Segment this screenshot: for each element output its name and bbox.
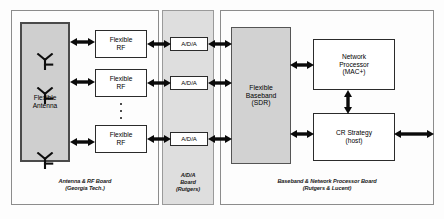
arrow-rf-ada-1 [147, 38, 171, 50]
arrow-ada-baseband-3 [208, 133, 232, 145]
cr-strategy-block[interactable]: CR Strategy (host) [313, 113, 395, 161]
ada-block-1[interactable]: A/D/A [170, 37, 208, 51]
arrow-ada-baseband-2 [208, 77, 232, 89]
antenna-icon [35, 34, 55, 51]
arrow-antenna-rf-2 [70, 76, 95, 88]
arrow-network-processor-cr-strategy [342, 90, 354, 114]
network-processor-block[interactable]: Network Processor (MAC+) [313, 39, 395, 90]
arrow-baseband-cr-strategy [290, 128, 314, 140]
board-ada-caption: A/D/A Board (Rutgers) [162, 172, 214, 192]
flexible-antenna-block[interactable]: Flexible Antenna [20, 22, 70, 162]
arrow-antenna-rf-3 [70, 136, 95, 148]
ada-block-3[interactable]: A/D/A [170, 132, 208, 146]
antenna-icon [35, 133, 55, 150]
arrow-cr-strategy-external [394, 128, 434, 140]
flexible-rf-block-1[interactable]: Flexible RF [95, 30, 147, 58]
arrow-rf-ada-3 [147, 133, 171, 145]
rf-column-ellipsis [117, 103, 125, 119]
ellipsis-dot [120, 110, 122, 112]
diagram-canvas: Antenna & RF Board (Georgia Tech.) A/D/A… [0, 0, 444, 219]
board-baseband-caption: Baseband & Network Processor Board (Rutg… [220, 178, 434, 192]
antenna-icon [35, 68, 55, 85]
arrow-antenna-rf-1 [70, 36, 95, 48]
flexible-rf-block-2[interactable]: Flexible RF [95, 69, 147, 97]
arrow-rf-ada-2 [147, 77, 171, 89]
arrow-ada-baseband-1 [208, 38, 232, 50]
ellipsis-dot [120, 117, 122, 119]
ada-block-2[interactable]: A/D/A [170, 76, 208, 90]
ellipsis-dot [120, 103, 122, 105]
flexible-rf-block-3[interactable]: Flexible RF [95, 125, 147, 153]
flexible-baseband-block[interactable]: Flexible Baseband (SDR) [231, 27, 291, 164]
flexible-antenna-label: Flexible Antenna [22, 94, 68, 110]
arrow-baseband-network-processor [290, 59, 314, 71]
board-antenna-rf-caption: Antenna & RF Board (Georgia Tech.) [11, 178, 159, 192]
